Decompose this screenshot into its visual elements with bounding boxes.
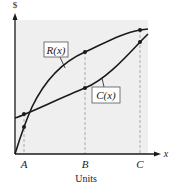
tick-b-label: B xyxy=(82,158,89,170)
plot-area-shade xyxy=(15,20,148,154)
x-axis-title: Units xyxy=(75,173,97,184)
r-point-b xyxy=(83,50,87,54)
tick-a-label: A xyxy=(20,158,28,170)
x-axis-label: x xyxy=(163,148,169,159)
revenue-cost-diagram: R(x) C(x) $ x A B C Units xyxy=(0,0,177,189)
r-point-a xyxy=(22,125,26,129)
r-point-c xyxy=(138,28,142,32)
c-point-c xyxy=(138,40,142,44)
c-point-b xyxy=(83,86,87,90)
y-axis-label: $ xyxy=(13,0,18,10)
c-point-a xyxy=(22,112,26,116)
y-axis-arrow-icon xyxy=(13,13,18,20)
c-label: C(x) xyxy=(96,89,116,102)
x-axis-arrow-icon xyxy=(154,152,161,157)
r-label: R(x) xyxy=(46,44,66,57)
tick-c-label: C xyxy=(136,158,144,170)
